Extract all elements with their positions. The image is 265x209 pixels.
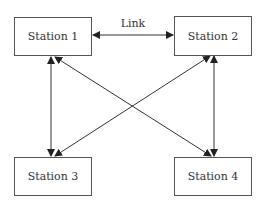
station-1-node: Station 1 — [14, 17, 92, 56]
station-2-node: Station 2 — [174, 16, 252, 56]
link-label: Link — [121, 17, 146, 30]
station-3-node: Station 3 — [14, 157, 92, 196]
station-4-node: Station 4 — [174, 157, 252, 196]
